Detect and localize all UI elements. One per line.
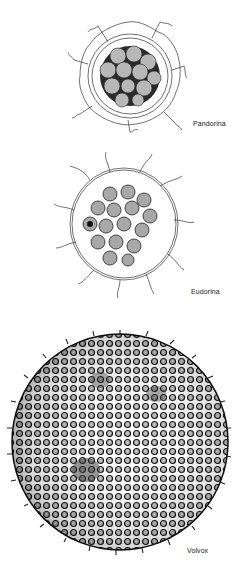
label-pandorina: Pandorina [193, 120, 226, 127]
label-eudorina: Eudorina [191, 288, 220, 295]
pandorina-illustration [68, 14, 188, 134]
eudorina-illustration [50, 150, 200, 300]
volvox-illustration [6, 330, 234, 555]
label-volvox: Volvox [187, 547, 208, 554]
